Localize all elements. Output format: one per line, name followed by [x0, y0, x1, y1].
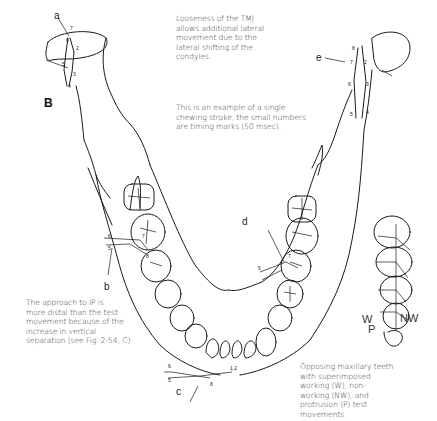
svg-text:2: 2 — [76, 45, 79, 51]
svg-text:5: 5 — [258, 265, 261, 271]
point-label-b: b — [104, 281, 110, 292]
caption-tmj-looseness: Looseness of the TMJ allows additional l… — [176, 14, 356, 62]
maxillary-teeth — [374, 216, 412, 346]
svg-text:6: 6 — [168, 363, 171, 369]
movement-label-non-working: NW — [400, 312, 418, 324]
svg-text:8: 8 — [146, 253, 149, 259]
svg-text:7: 7 — [70, 25, 73, 31]
left-coronoid — [130, 176, 141, 210]
caption-approach-ip: The approach to IP is more distal than t… — [26, 298, 176, 346]
movement-label-protrusion: P — [368, 323, 375, 335]
svg-text:4: 4 — [68, 83, 71, 89]
svg-text:7: 7 — [142, 233, 145, 239]
panel-label: B — [44, 96, 53, 110]
mandible-drawing: 65 78 65 81,2 57 76 25 34 87 26 35 4 — [0, 0, 437, 421]
svg-text:6: 6 — [348, 81, 351, 87]
svg-text:8: 8 — [210, 381, 213, 387]
svg-text:3: 3 — [366, 81, 369, 87]
point-label-e: e — [316, 52, 322, 63]
right-teeth — [268, 196, 318, 331]
right-condyle — [372, 32, 410, 72]
svg-text:3: 3 — [73, 71, 76, 77]
left-ramus-inner — [103, 38, 150, 165]
right-coronoid — [312, 145, 323, 175]
inner-arch — [150, 165, 318, 291]
incisors — [206, 328, 276, 358]
left-condyle-trace — [64, 38, 74, 86]
svg-text:6: 6 — [66, 37, 69, 43]
svg-text:7: 7 — [288, 253, 291, 259]
point-label-d: d — [242, 216, 248, 227]
svg-text:6: 6 — [108, 233, 111, 239]
svg-text:2: 2 — [364, 59, 367, 65]
svg-text:5: 5 — [108, 245, 111, 251]
svg-text:1,2: 1,2 — [230, 365, 237, 371]
point-label-a: a — [54, 10, 60, 21]
svg-text:5: 5 — [168, 377, 171, 383]
caption-chewing-stroke: This is an example of a single chewing s… — [176, 103, 376, 132]
point-label-c: c — [176, 386, 181, 397]
caption-opposing-teeth: Opposing maxillary teeth with superimpos… — [300, 362, 437, 420]
svg-text:5: 5 — [62, 61, 65, 67]
